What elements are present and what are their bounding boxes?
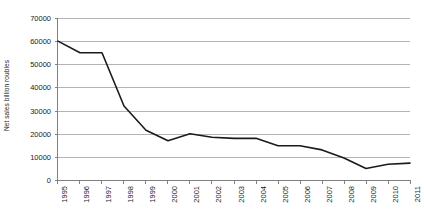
x-tick-mark bbox=[322, 180, 323, 184]
x-tick-label: 2004 bbox=[259, 186, 268, 203]
y-tick-label: 30000 bbox=[30, 106, 51, 115]
x-tick-mark bbox=[300, 180, 301, 184]
y-axis-title: Net sales billion roubles bbox=[0, 0, 14, 190]
x-tick-label: 1999 bbox=[148, 186, 157, 203]
y-tick-label: 0 bbox=[47, 176, 51, 185]
x-tick-mark bbox=[79, 180, 80, 184]
x-tick-mark bbox=[278, 180, 279, 184]
y-axis-title-label: Net sales billion roubles bbox=[4, 59, 11, 130]
y-tick-label: 70000 bbox=[30, 14, 51, 23]
x-tick-label: 2006 bbox=[303, 186, 312, 203]
x-tick-label: 1998 bbox=[126, 186, 135, 203]
x-tick-mark bbox=[167, 180, 168, 184]
x-tick-label: 2008 bbox=[347, 186, 356, 203]
y-tick-label: 50000 bbox=[30, 60, 51, 69]
x-tick-mark bbox=[410, 180, 411, 184]
x-tick-mark bbox=[366, 180, 367, 184]
x-tick-mark bbox=[211, 180, 212, 184]
x-tick-mark bbox=[344, 180, 345, 184]
x-tick-mark bbox=[57, 180, 58, 184]
x-tick-label: 1995 bbox=[60, 186, 69, 203]
y-tick-label: 40000 bbox=[30, 83, 51, 92]
x-tick-mark bbox=[256, 180, 257, 184]
x-tick-label: 2005 bbox=[281, 186, 290, 203]
x-tick-mark bbox=[388, 180, 389, 184]
x-tick-label: 2001 bbox=[192, 186, 201, 203]
series-line-net-sales bbox=[58, 18, 410, 180]
line-chart-figure: Net sales billion roubles 01000020000300… bbox=[0, 0, 424, 217]
y-tick-label: 60000 bbox=[30, 37, 51, 46]
x-tick-label: 2009 bbox=[369, 186, 378, 203]
x-tick-label: 2010 bbox=[391, 186, 400, 203]
y-tick-label: 20000 bbox=[30, 129, 51, 138]
x-tick-label: 2002 bbox=[214, 186, 223, 203]
x-tick-mark bbox=[145, 180, 146, 184]
x-tick-label: 2003 bbox=[237, 186, 246, 203]
y-axis-tick-labels: 010000200003000040000500006000070000 bbox=[14, 0, 54, 190]
plot-area bbox=[57, 18, 410, 180]
x-tick-label: 1997 bbox=[104, 186, 113, 203]
x-tick-mark bbox=[123, 180, 124, 184]
x-tick-mark bbox=[189, 180, 190, 184]
y-tick-label: 10000 bbox=[30, 152, 51, 161]
x-axis: 1995199619971998199920002001200220032004… bbox=[57, 180, 410, 217]
x-tick-label: 2011 bbox=[413, 186, 422, 202]
x-tick-mark bbox=[234, 180, 235, 184]
x-tick-mark bbox=[101, 180, 102, 184]
x-tick-label: 2007 bbox=[325, 186, 334, 203]
x-tick-label: 2000 bbox=[170, 186, 179, 203]
x-tick-label: 1996 bbox=[82, 186, 91, 203]
